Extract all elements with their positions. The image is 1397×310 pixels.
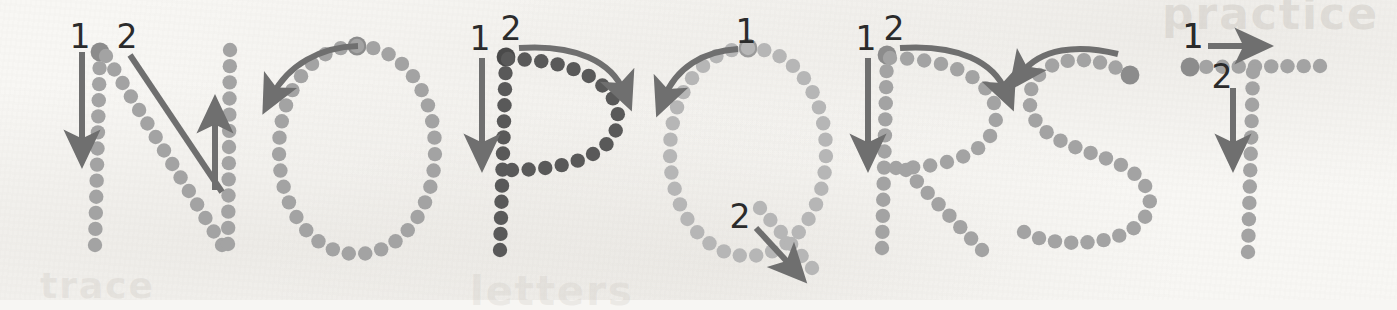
p-dot [505,163,519,177]
q-stroke-number-2: 2 [730,197,751,236]
n-dot [221,172,235,186]
q-dot [794,249,808,263]
s-dot [1127,167,1141,181]
n-dot [190,197,204,211]
r-dot [978,81,992,95]
s-dot [1045,58,1059,72]
p-dot [498,66,512,80]
letter-N-group: 1 2 [70,17,238,252]
q-dot [784,237,798,251]
s-dot [1080,235,1094,249]
s-dot [1114,158,1128,172]
r-dot [989,113,1003,127]
o-dot [421,98,435,112]
s-dot [1048,234,1062,248]
n-dot [222,75,236,89]
r-dot [917,53,931,67]
s-dot [1143,194,1157,208]
r-dot [878,128,892,142]
q-dot [667,182,681,196]
n-dot [149,130,163,144]
o-dot [326,242,340,256]
t-dot [1245,81,1259,95]
letter-S-dots [1017,53,1157,250]
s-dot [1023,98,1037,112]
o-dot [410,210,424,224]
t-dot [1243,179,1257,193]
t-dot [1280,59,1294,73]
q-dot [818,132,832,146]
p-dot [498,82,512,96]
r-dot [940,155,954,169]
q-dot [805,261,819,275]
p-dot [521,162,535,176]
o-dot [374,242,388,256]
r-dot [950,62,964,76]
q-dot [690,225,704,239]
q-dot [664,165,678,179]
letter-R-group: 1 2 [856,9,1007,257]
letter-R-dots [875,46,1003,258]
o-dot [395,57,409,71]
t-dot [1244,147,1258,161]
n-dot [88,238,102,252]
o-dot [428,147,442,161]
p-dot [571,153,585,167]
p-dot [599,137,613,151]
n-dot [140,116,154,130]
s-dot [1068,140,1082,154]
p-dot [534,54,548,68]
r-dot [876,193,890,207]
p-dot [538,161,552,175]
n-dot [182,184,196,198]
letter-P-group: 1 2 [470,9,626,257]
s-dot [1099,151,1113,165]
n-dot [221,237,235,251]
o-dot [276,180,290,194]
p-dot [606,91,620,105]
q-dot [702,236,716,250]
n-dot [222,156,236,170]
q-dot [814,182,828,196]
n-dot [92,77,106,91]
letter-O-group [272,37,442,261]
r-dot [879,80,893,94]
q-dot [733,248,747,262]
s-dot [1032,68,1046,82]
p-stroke-number-2: 2 [501,9,522,48]
t-dot [1246,65,1260,79]
n-dot [165,157,179,171]
n-dot [92,93,106,107]
s-dot [1093,55,1107,69]
letter-Q-group: 1 2 [663,12,833,275]
s-dot [1077,53,1091,67]
n-stroke-number-2: 2 [117,17,138,56]
o-dot [299,223,313,237]
s-dot [1138,210,1152,224]
o-dot [358,246,372,260]
o-dot [423,180,437,194]
letter-T-dots [1181,58,1328,260]
q-dot [685,71,699,85]
r-dot [876,176,890,190]
q-dot [673,197,687,211]
o-dot [272,130,286,144]
t-stroke-number-1: 1 [1183,17,1204,56]
q-dot [816,116,830,130]
r-dot [953,220,967,234]
o-dot [427,130,441,144]
s-dot [1096,233,1110,247]
n-dot [222,140,236,154]
q-dot [763,213,777,227]
q-dot [797,71,811,85]
t-dot [1243,163,1257,177]
r-dot [883,51,897,65]
p-dot [611,107,625,121]
p-dot [582,69,596,83]
n-dot [90,157,104,171]
n-dot [173,170,187,184]
r-dot [934,57,948,71]
r-dot [899,163,913,177]
n-dot [198,211,212,225]
r-dot [875,241,889,255]
